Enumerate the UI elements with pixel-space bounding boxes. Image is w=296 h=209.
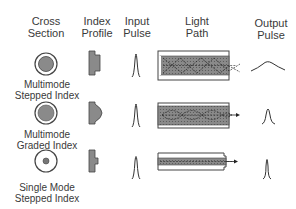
cross-section-multimode-stepped <box>35 53 57 75</box>
output-pulse-narrow <box>263 160 271 180</box>
output-pulse-medium <box>262 109 275 124</box>
input-pulse-2 <box>132 104 140 127</box>
input-pulse-1 <box>132 54 140 77</box>
light-path-multimode-stepped <box>158 51 240 80</box>
index-profile-graded <box>89 102 102 124</box>
cross-section-multimode-graded <box>35 102 57 124</box>
output-pulse-broad <box>251 62 285 71</box>
light-path-multimode-graded <box>158 103 240 128</box>
fiber-diagram <box>0 0 296 209</box>
index-profile-step <box>89 51 100 75</box>
index-profile-narrow-step <box>89 150 98 172</box>
cross-section-single-mode <box>35 150 57 172</box>
light-path-single-mode <box>158 153 238 170</box>
input-pulse-3 <box>132 157 140 180</box>
